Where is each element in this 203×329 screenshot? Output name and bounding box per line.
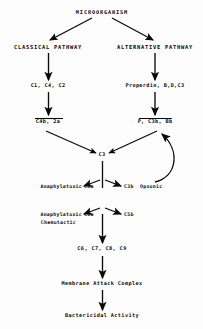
diagram-canvas: MICROORGANISM CLASSICAL PATHWAY ALTERNAT… bbox=[0, 0, 203, 329]
edge-microorganism-to-classical bbox=[50, 18, 92, 40]
edge-alternative-convertase-to-c3 bbox=[109, 131, 157, 153]
node-c3a-label: Anaphylatoxic bbox=[40, 184, 82, 189]
node-membrane-attack-complex: Membrane Attack Complex bbox=[61, 281, 142, 287]
edge-c3-to-c3b bbox=[105, 180, 121, 186]
node-alternative-convertase: P, C3b, Bb bbox=[138, 119, 173, 125]
node-c5a: C5a bbox=[84, 212, 94, 217]
node-c5b: C5b bbox=[124, 212, 134, 217]
node-terminal-components: C6, C7, C8, C9 bbox=[77, 246, 126, 252]
node-c5a-label-line2: Chemotactic bbox=[41, 220, 76, 225]
node-c3b: C3b bbox=[124, 184, 134, 189]
node-classical-components: C1, C4, C2 bbox=[31, 83, 66, 89]
edge-microorganism-to-alternative bbox=[112, 18, 153, 40]
edge-c3-to-c5b bbox=[105, 208, 121, 214]
node-bactericidal-activity: Bactericidal Activity bbox=[65, 313, 139, 319]
edge-c3b-feedback-loop bbox=[155, 134, 174, 182]
node-classical-pathway: CLASSICAL PATHWAY bbox=[14, 44, 82, 50]
node-alternative-components: Properdin, B,D,C3 bbox=[125, 83, 184, 89]
node-classical-convertase: C4b, 2a bbox=[36, 119, 60, 125]
node-c3b-label: Opsonic bbox=[140, 184, 162, 189]
node-c5a-label-line1: Anaphylatoxic bbox=[40, 212, 82, 217]
node-microorganism: MICROORGANISM bbox=[76, 10, 128, 16]
node-c3a: C3a bbox=[84, 184, 94, 189]
node-alternative-pathway: ALTERNATIVE PATHWAY bbox=[117, 44, 193, 50]
edge-classical-convertase-to-c3 bbox=[46, 131, 96, 153]
node-c3: C3 bbox=[99, 152, 106, 158]
